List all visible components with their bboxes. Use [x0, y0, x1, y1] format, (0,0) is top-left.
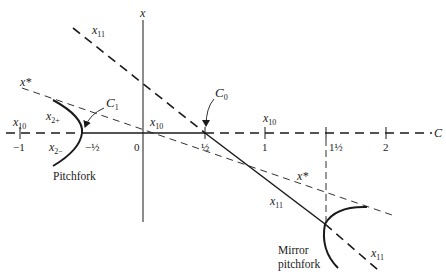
- x10-label-center: x10: [149, 115, 163, 131]
- x10-label-right: x10: [262, 111, 276, 127]
- x11-label-middle: x11: [269, 194, 283, 210]
- c1-arrow: [85, 108, 104, 127]
- x2plus-label: x2+: [45, 109, 60, 125]
- x11-label-bottom: x11: [370, 246, 384, 262]
- xstar-label-right: x*: [296, 169, 308, 183]
- tick-label-2: 2: [383, 141, 389, 153]
- x11-dashed-upper: [73, 28, 205, 133]
- horizontal-axis-label: C: [434, 126, 443, 140]
- vertical-axis-label: x: [139, 6, 146, 20]
- x2minus-label: x2−: [48, 140, 63, 156]
- xstar-label-left: x*: [19, 75, 31, 89]
- bifurcation-diagram: x C −1 −½ 0 ½ 1 1½ 2 x10 x10 x10 x11 x11…: [0, 0, 446, 276]
- x11-label-top: x11: [91, 23, 105, 39]
- tick-label-minus-half: −½: [85, 141, 99, 153]
- pitchfork-caption: Pitchfork: [53, 170, 96, 182]
- tick-label-1-half: 1½: [329, 141, 343, 153]
- tick-label-minus-1: −1: [13, 141, 25, 153]
- x10-label-left: x10: [12, 115, 26, 131]
- c0-arrow: [206, 99, 214, 126]
- mirror-pitchfork-lower: [324, 224, 338, 268]
- mirror-pitchfork-caption-line1: Mirror: [278, 244, 309, 256]
- c0-label: C0: [215, 85, 228, 102]
- tick-label-0: 0: [134, 141, 140, 153]
- mirror-pitchfork-caption-line2: pitchfork: [278, 258, 320, 271]
- tick-label-1: 1: [262, 141, 268, 153]
- tick-label-half: ½: [201, 141, 209, 153]
- c1-label: C1: [106, 95, 119, 112]
- mirror-pitchfork-upper: [325, 207, 367, 224]
